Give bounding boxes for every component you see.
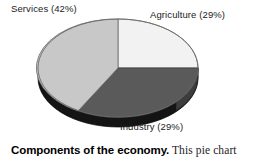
chart-plot-area: Services (42%) Agriculture (29%) Industr… [0, 0, 259, 136]
pie-label-industry: Industry (29%) [120, 121, 183, 132]
caption-lead-in: Components of the economy. [11, 144, 169, 156]
figure-caption: Components of the economy. This pie char… [11, 142, 256, 157]
pie-slice-agriculture[interactable] [118, 19, 198, 68]
pie-label-agriculture: Agriculture (29%) [150, 9, 225, 20]
pie-chart-svg [0, 0, 259, 136]
pie-chart-figure: Services (42%) Agriculture (29%) Industr… [0, 0, 259, 163]
pie-top-face [36, 19, 198, 118]
caption-body-continued: This pie chart [172, 144, 237, 156]
pie-label-services: Services (42%) [11, 3, 77, 14]
